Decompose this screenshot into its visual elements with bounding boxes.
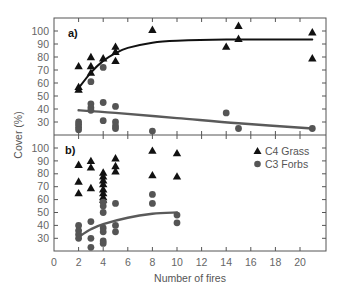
fire-cover-chart: 3040506070809010030405060708090100024681… bbox=[0, 0, 343, 297]
c4-grass-point bbox=[111, 154, 119, 161]
c3-forbs-point bbox=[100, 117, 107, 124]
c4-grass-point bbox=[111, 57, 119, 64]
y-tick-label: 70 bbox=[37, 180, 49, 192]
fit-curves bbox=[79, 39, 313, 237]
legend-label-c3-forbs: C3 Forbs bbox=[265, 158, 308, 170]
c3-forbs-point bbox=[112, 222, 119, 229]
y-tick-label: 40 bbox=[37, 103, 49, 115]
panel-label-a: a) bbox=[68, 27, 78, 39]
panel-label-b: b) bbox=[65, 144, 76, 156]
x-tick-label: 10 bbox=[171, 256, 183, 268]
c3-forbs-point bbox=[112, 125, 119, 132]
x-tick-label: 0 bbox=[51, 256, 57, 268]
c4-grass-point bbox=[308, 28, 316, 35]
c3-forbs-point bbox=[88, 235, 95, 242]
c4-grass-point bbox=[87, 184, 95, 191]
c3-forbs-point bbox=[75, 126, 82, 133]
x-tick-label: 6 bbox=[125, 256, 131, 268]
c3-forbs-point bbox=[88, 218, 95, 225]
c3-forbs-point bbox=[100, 209, 107, 216]
x-tick-label: 8 bbox=[149, 256, 155, 268]
c3-forbs-point bbox=[149, 191, 156, 198]
y-tick-label: 100 bbox=[31, 142, 49, 154]
c4-grass-point bbox=[74, 62, 82, 69]
y-tick-label: 40 bbox=[37, 219, 49, 231]
legend: C4 Grass C3 Forbs bbox=[254, 145, 310, 170]
c3-forbs-point bbox=[149, 128, 156, 135]
c3-forbs-point bbox=[112, 228, 119, 235]
c3-forbs-point bbox=[174, 219, 181, 226]
y-tick-label: 30 bbox=[37, 116, 49, 128]
c3-forbs-point bbox=[100, 64, 107, 71]
x-tick-label: 2 bbox=[76, 256, 82, 268]
x-tick-label: 18 bbox=[270, 256, 282, 268]
c4-grass-point bbox=[148, 171, 156, 178]
c3-forbs-point bbox=[309, 125, 316, 132]
y-tick-label: 80 bbox=[37, 167, 49, 179]
y-tick-label: 80 bbox=[37, 51, 49, 63]
c3-forbs-point bbox=[223, 110, 230, 117]
c4-grass-point bbox=[74, 177, 82, 184]
y-tick-label: 70 bbox=[37, 64, 49, 76]
c4-grass-point bbox=[173, 172, 181, 179]
y-tick-label: 50 bbox=[37, 206, 49, 218]
c3-forbs-point bbox=[88, 244, 95, 251]
c4-grass-point bbox=[87, 53, 95, 60]
y-axis-title: Cover (%) bbox=[12, 111, 24, 158]
y-tick-label: 90 bbox=[37, 38, 49, 50]
c3-forbs-point bbox=[75, 235, 82, 242]
forbs-fit-curve bbox=[79, 213, 177, 238]
c4-grass-point bbox=[74, 189, 82, 196]
c4-grass-point bbox=[148, 26, 156, 33]
c4-grass-point bbox=[308, 54, 316, 61]
c4-grass-point bbox=[87, 157, 95, 164]
y-tick-label: 50 bbox=[37, 90, 49, 102]
x-tick-label: 14 bbox=[220, 256, 232, 268]
c3-forbs-point bbox=[100, 99, 107, 106]
c4-grass-point bbox=[74, 161, 82, 168]
plot-frame bbox=[54, 18, 326, 251]
c3-forbs-point bbox=[174, 212, 181, 219]
c3-forbs-point bbox=[235, 125, 242, 132]
y-tick-label: 90 bbox=[37, 155, 49, 167]
x-tick-label: 20 bbox=[294, 256, 306, 268]
c4-grass-point bbox=[87, 62, 95, 69]
x-tick-label: 4 bbox=[100, 256, 106, 268]
circle-marker-icon bbox=[254, 161, 261, 168]
c4-grass-point bbox=[234, 22, 242, 29]
legend-label-c4-grass: C4 Grass bbox=[265, 145, 309, 157]
y-tick-label: 60 bbox=[37, 193, 49, 205]
c4-grass-point bbox=[222, 42, 230, 49]
c3-forbs-point bbox=[112, 103, 119, 110]
x-tick-label: 16 bbox=[245, 256, 257, 268]
c4-grass-point bbox=[234, 35, 242, 42]
y-tick-label: 100 bbox=[31, 25, 49, 37]
c4-grass-point bbox=[173, 149, 181, 156]
c3-forbs-point bbox=[100, 228, 107, 235]
x-tick-label: 12 bbox=[196, 256, 208, 268]
c3-forbs-point bbox=[112, 200, 119, 207]
y-tick-label: 60 bbox=[37, 77, 49, 89]
x-axis-title: Number of fires bbox=[154, 272, 226, 284]
c4-grass-point bbox=[87, 163, 95, 170]
c3-forbs-point bbox=[100, 240, 107, 247]
c3-forbs-point bbox=[149, 200, 156, 207]
c3-forbs-point bbox=[88, 78, 95, 85]
c3-forbs-point bbox=[100, 203, 107, 210]
c4-grass-point bbox=[148, 146, 156, 153]
y-tick-label: 30 bbox=[37, 232, 49, 244]
triangle-marker-icon bbox=[254, 147, 262, 154]
c3-forbs-point bbox=[88, 107, 95, 114]
